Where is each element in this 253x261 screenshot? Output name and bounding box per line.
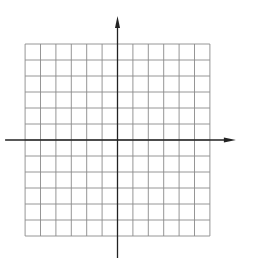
y-axis-arrow-icon (115, 16, 120, 28)
x-axis-arrow-icon (224, 138, 236, 143)
coordinate-plane-chart (0, 0, 253, 261)
